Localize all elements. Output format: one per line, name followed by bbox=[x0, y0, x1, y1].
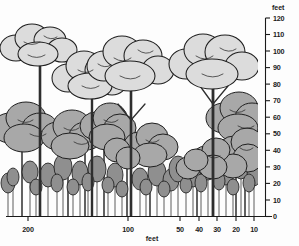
x-tick-label: 40 bbox=[195, 225, 203, 234]
y-tick-label: 100 bbox=[273, 47, 285, 56]
y-tick-label: 90 bbox=[273, 63, 281, 72]
x-tick-label: 200 bbox=[22, 225, 34, 234]
y-tick-label: 60 bbox=[273, 113, 281, 122]
profile-diagram-svg: 120 110 100 90 80 70 60 50 40 30 20 10 0… bbox=[0, 0, 299, 246]
x-axis-unit-label: feet bbox=[146, 235, 159, 242]
y-tick-label: 20 bbox=[273, 179, 281, 188]
y-tick-label: 0 bbox=[273, 212, 277, 221]
x-tick-label: 100 bbox=[122, 225, 134, 234]
y-axis-unit-label: feet bbox=[272, 4, 285, 11]
y-tick-label: 80 bbox=[273, 80, 281, 89]
rainforest-profile-figure: 120 110 100 90 80 70 60 50 40 30 20 10 0… bbox=[0, 0, 299, 246]
y-tick-label: 50 bbox=[273, 129, 281, 138]
y-tick-label: 70 bbox=[273, 96, 281, 105]
y-tick-label: 10 bbox=[273, 196, 281, 205]
y-tick-label: 110 bbox=[273, 30, 284, 39]
x-tick-label: 50 bbox=[176, 225, 184, 234]
y-tick-label: 30 bbox=[273, 163, 281, 172]
y-tick-label: 40 bbox=[273, 146, 281, 155]
y-tick-label: 120 bbox=[273, 14, 285, 23]
x-tick-label: 10 bbox=[250, 225, 258, 234]
x-tick-label: 30 bbox=[213, 225, 221, 234]
figure-canvas: 120 110 100 90 80 70 60 50 40 30 20 10 0… bbox=[0, 0, 299, 246]
x-tick-label: 20 bbox=[232, 225, 240, 234]
